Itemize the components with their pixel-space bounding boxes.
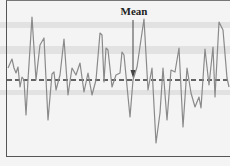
mean-arrow <box>131 20 136 78</box>
chart-figure: Mean <box>0 0 230 166</box>
mean-annotation-label: Mean <box>118 5 150 17</box>
line-plot <box>0 0 230 166</box>
